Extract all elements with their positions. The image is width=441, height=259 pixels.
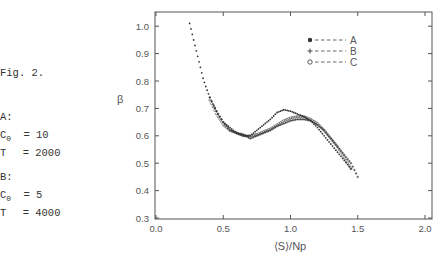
svg-text:0.6: 0.6	[136, 130, 149, 141]
beta-vs-s-chart: 0.00.51.01.52.00.30.40.50.60.70.80.91.0 …	[0, 0, 441, 259]
svg-text:0.3: 0.3	[136, 213, 149, 224]
plot-frame	[155, 12, 432, 219]
x-axis-label: ⟨S⟩/Np	[274, 240, 306, 252]
svg-text:0.5: 0.5	[217, 223, 230, 234]
svg-text:0.7: 0.7	[136, 103, 149, 114]
svg-text:2.0: 2.0	[418, 223, 431, 234]
svg-text:0.5: 0.5	[136, 158, 149, 169]
svg-text:0.0: 0.0	[149, 223, 162, 234]
svg-text:C: C	[350, 57, 357, 68]
data-points	[189, 23, 359, 179]
svg-text:0.8: 0.8	[136, 76, 149, 87]
chart-legend: ABC	[308, 35, 358, 68]
svg-text:B: B	[350, 46, 357, 57]
svg-text:1.0: 1.0	[284, 223, 297, 234]
svg-text:1.5: 1.5	[351, 223, 364, 234]
y-axis-label: β	[117, 93, 123, 105]
svg-text:A: A	[350, 35, 357, 46]
svg-text:1.0: 1.0	[136, 21, 149, 32]
svg-text:0.9: 0.9	[136, 48, 149, 59]
svg-text:0.4: 0.4	[136, 185, 149, 196]
